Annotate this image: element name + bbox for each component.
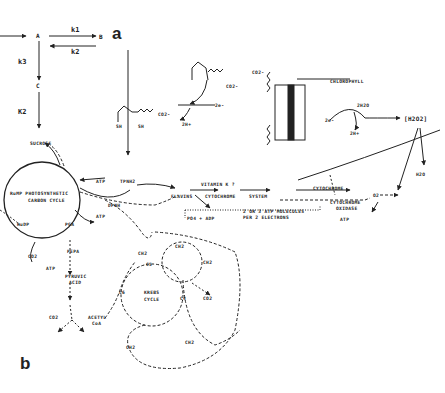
label-pyruvic-1: PYRUVIC bbox=[65, 274, 86, 279]
node-c: C bbox=[36, 82, 40, 89]
label-cycle-1: RuMP PHOTOSYNTHETIC bbox=[10, 191, 68, 196]
label-dpnh: DPNH bbox=[108, 203, 120, 208]
rate-k3: k3 bbox=[18, 58, 26, 66]
rate-K2: K2 bbox=[18, 108, 26, 116]
label-acetyl-2: CoA bbox=[92, 321, 101, 326]
label-acetyl-1: ACETYL bbox=[88, 315, 106, 320]
label-h2o: 2H2O bbox=[357, 103, 369, 108]
label-co2-2: CO2 bbox=[49, 315, 58, 320]
label-2e-2: 2e- bbox=[325, 118, 334, 123]
label-system: SYSTEM bbox=[249, 194, 267, 199]
label-cycle-2: CARBON CYCLE bbox=[28, 198, 65, 203]
label-2h-2: 2H+ bbox=[350, 131, 359, 136]
label-co2-3: CO2 bbox=[203, 296, 212, 301]
label-atp-3: ATP bbox=[46, 266, 55, 271]
label-2e-1: 2e- bbox=[215, 103, 224, 108]
rate-k2: k2 bbox=[71, 48, 79, 56]
label-o2: O2 bbox=[373, 193, 379, 198]
label-sh-2: SH bbox=[138, 124, 144, 129]
label-vitamin-k: VITAMIN K ? bbox=[201, 182, 235, 187]
label-c4a: C4 bbox=[180, 296, 186, 301]
panel-label-b: b bbox=[20, 354, 30, 374]
label-ch2-a: CH2 bbox=[138, 251, 147, 256]
label-ch2-c: CH2 bbox=[203, 260, 212, 265]
label-ch2-b: CH2 bbox=[175, 244, 184, 249]
label-cytochrome-oxidase-1: CYTOCHROME bbox=[330, 200, 361, 205]
label-c6: C6 bbox=[119, 290, 125, 295]
node-b: B bbox=[99, 33, 103, 40]
panel-label-a: a bbox=[112, 24, 121, 44]
label-ch2-e: CH2 bbox=[126, 345, 135, 350]
label-co2-lipo-2: CO2- bbox=[226, 84, 238, 89]
node-a: A bbox=[36, 32, 40, 39]
label-ch2-d: CH2 bbox=[185, 340, 194, 345]
label-h2o-out: H2O bbox=[416, 172, 425, 177]
label-tpnh: TPNH2 bbox=[120, 179, 135, 184]
label-2h-1: 2H+ bbox=[182, 122, 191, 127]
label-cytochrome-oxidase-2: OXIDASE bbox=[336, 206, 357, 211]
label-co2-lipo: CO2- bbox=[252, 70, 264, 75]
label-krebs-2: CYCLE bbox=[144, 297, 159, 302]
label-atp-molecules-1: 2 OR 3 ATP MOLECULES bbox=[243, 209, 304, 214]
label-krebs-1: KREBS bbox=[144, 290, 159, 295]
label-cytochrome-c: CYTOCHROME bbox=[313, 186, 344, 191]
label-pga: PGA bbox=[65, 222, 74, 227]
label-sh-1: SH bbox=[116, 124, 122, 129]
label-h2o2: [H2O2] bbox=[404, 116, 427, 123]
label-po4-adp: PO4 + ADP bbox=[187, 216, 215, 221]
label-sucrose: SUCROSE bbox=[30, 141, 51, 146]
label-atp-2: ATP bbox=[96, 214, 105, 219]
label-rudp: RuDP bbox=[17, 222, 29, 227]
label-pepa: PEPA bbox=[67, 249, 79, 254]
label-cytochrome-b: CYTOCHROME bbox=[205, 194, 236, 199]
label-c5: C5 bbox=[146, 262, 152, 267]
label-flavins: FLAVINS bbox=[171, 194, 192, 199]
label-co2-1: CO2 bbox=[28, 254, 37, 259]
label-chlorophyll: CHLOROPHYLL bbox=[330, 79, 364, 84]
label-atp-4: ATP bbox=[340, 217, 349, 222]
label-atp-molecules-2: PER 2 ELECTRONS bbox=[243, 215, 289, 220]
label-pyruvic-2: ACID bbox=[69, 280, 81, 285]
label-atp-1: ATP bbox=[96, 179, 105, 184]
label-co2-lipo-3: CO2- bbox=[158, 112, 170, 117]
rate-k1: k1 bbox=[71, 26, 79, 34]
